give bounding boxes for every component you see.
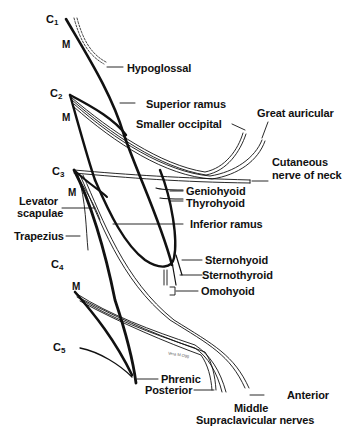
root-c5-label: C5: [53, 341, 65, 357]
geniohyoid-branch: [156, 188, 183, 190]
root-c1-label: C1: [46, 13, 58, 29]
muscular-marker-c3: M: [68, 187, 76, 198]
label-great-auricular: Great auricular: [257, 107, 334, 119]
label-hypoglossal: Hypoglossal: [127, 62, 191, 74]
thyrohyoid-branch: [160, 198, 183, 199]
label-middle: Middle: [234, 402, 268, 414]
label-sternothyroid: Sternothyroid: [202, 269, 273, 281]
label-trapezius: Trapezius: [14, 230, 64, 242]
label-omohyoid: Omohyoid: [201, 285, 255, 297]
supraclavicular-middle: [77, 294, 226, 392]
muscular-marker-c1: M: [62, 39, 70, 50]
label-cutaneous-1: Cutaneous: [272, 156, 328, 168]
ansa-cervicalis: [95, 170, 175, 267]
c4-trunk: [75, 292, 132, 375]
label-levator-1: Levator: [19, 195, 58, 207]
muscular-marker-c2: M: [62, 112, 70, 123]
label-inferior-ramus: Inferior ramus: [190, 218, 263, 230]
label-levator-2: scapulae: [17, 207, 63, 219]
label-sternohyoid: Sternohyoid: [205, 254, 268, 266]
label-smaller-occipital: Smaller occipital: [136, 118, 222, 130]
label-supraclavicular-nerves: Supraclavicular nerves: [196, 414, 314, 426]
root-c3-label: C3: [52, 165, 64, 181]
label-geniohyoid: Geniohyoid: [186, 185, 246, 197]
root-c4-label: C4: [51, 258, 63, 274]
label-superior-ramus: Superior ramus: [146, 98, 226, 110]
label-cutaneous-2: nerve of neck: [272, 169, 342, 181]
muscular-marker-c4: M: [72, 281, 80, 292]
root-c2-label: C2: [50, 87, 62, 103]
label-posterior: Posterior: [145, 384, 192, 396]
leader-lines: [62, 67, 268, 395]
label-anterior: Anterior: [287, 389, 329, 401]
label-thyrohyoid: Thyrohyoid: [186, 197, 245, 209]
